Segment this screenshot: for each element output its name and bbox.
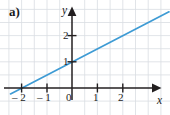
x-tick-label-1: 1 bbox=[93, 92, 99, 103]
y-tick-label-2: 2 bbox=[63, 30, 69, 41]
x-tick-label-neg1: – 1 bbox=[37, 92, 51, 103]
x-tick-label-zero: 0 bbox=[66, 92, 72, 103]
chart-figure: a) x y – 2 – 1 0 1 2 1 2 bbox=[0, 0, 170, 115]
x-tick-label-2: 2 bbox=[118, 92, 124, 103]
x-axis-label: x bbox=[157, 95, 162, 107]
x-tick-label-neg2: – 2 bbox=[12, 92, 26, 103]
y-axis bbox=[68, 7, 77, 101]
y-tick-label-1: 1 bbox=[63, 56, 69, 67]
panel-label: a) bbox=[9, 5, 20, 18]
y-axis-label: y bbox=[62, 5, 67, 17]
